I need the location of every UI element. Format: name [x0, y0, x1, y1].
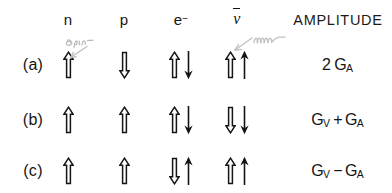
- solid-up-arrow-icon: [239, 156, 250, 186]
- hollow-up-arrow-icon: [225, 157, 236, 185]
- arrow-group-row-a-antineutrino: [225, 50, 250, 80]
- arrow-group-row-a-p: [119, 51, 130, 79]
- row-label-b-text: (b): [23, 112, 43, 128]
- amplitude-row-b-term-2-subscript: A: [357, 118, 364, 129]
- solid-down-arrow-icon: [239, 105, 250, 135]
- solid-up-arrow-icon: [239, 50, 250, 80]
- cell-row-a-p: [104, 48, 144, 82]
- arrow-group-row-a-electron: [169, 50, 194, 80]
- hollow-down-arrow-icon: [119, 51, 130, 79]
- hollow-down-arrow-icon: [169, 157, 180, 185]
- cell-row-c-electron: [156, 154, 206, 188]
- arrow-group-row-c-antineutrino: [225, 156, 250, 186]
- amplitude-row-c: GV−GA: [284, 158, 392, 184]
- cell-row-a-n: [48, 48, 88, 82]
- solid-up-arrow-icon: [183, 156, 194, 186]
- amplitude-row-a-coefficient: 2: [322, 57, 331, 73]
- arrow-group-row-b-n: [63, 106, 74, 134]
- cell-row-c-p: [104, 154, 144, 188]
- arrow-group-row-c-electron: [169, 156, 194, 186]
- hollow-up-arrow-icon: [169, 51, 180, 79]
- solid-down-arrow-icon: [183, 105, 194, 135]
- hollow-down-arrow-icon: [225, 106, 236, 134]
- hollow-up-arrow-icon: [63, 157, 74, 185]
- hollow-up-arrow-icon: [169, 106, 180, 134]
- column-header-electron: e−: [158, 8, 204, 30]
- arrow-group-row-c-p: [119, 157, 130, 185]
- amplitude-row-c-operator: −: [333, 163, 343, 179]
- column-header-antineutrino: ν: [214, 6, 260, 30]
- hollow-up-arrow-icon: [63, 106, 74, 134]
- column-header-n: n: [48, 8, 88, 30]
- amplitude-row-a-term-1-subscript: A: [346, 63, 353, 74]
- row-label-a-text: (a): [23, 57, 43, 73]
- amplitude-row-b-operator: +: [333, 112, 343, 128]
- column-header-electron-superscript: −: [182, 14, 188, 24]
- arrow-group-row-b-p: [119, 106, 130, 134]
- hollow-up-arrow-icon: [119, 157, 130, 185]
- cell-row-b-antineutrino: [212, 103, 262, 137]
- arrow-group-row-a-n: [63, 51, 74, 79]
- hollow-up-arrow-icon: [63, 51, 74, 79]
- amplitude-row-b: GV+GA: [284, 107, 392, 133]
- cell-row-a-antineutrino: [212, 48, 262, 82]
- cell-row-c-n: [48, 154, 88, 188]
- cell-row-b-electron: [156, 103, 206, 137]
- cell-row-c-antineutrino: [212, 154, 262, 188]
- physics-amplitude-figure: n p e− ν AMPLITUDE (a): [0, 0, 392, 193]
- column-header-p: p: [104, 8, 144, 30]
- column-header-amplitude-label: AMPLITUDE: [293, 13, 382, 28]
- amplitude-row-b-term-1-subscript: V: [323, 118, 330, 129]
- cell-row-a-electron: [156, 48, 206, 82]
- row-label-c-text: (c): [23, 163, 43, 179]
- amplitude-row-a: 2GA: [284, 52, 392, 78]
- solid-down-arrow-icon: [183, 50, 194, 80]
- column-header-electron-label: e: [174, 12, 183, 27]
- arrow-group-row-b-electron: [169, 105, 194, 135]
- amplitude-row-c-term-2-subscript: A: [357, 169, 364, 180]
- hollow-up-arrow-icon: [119, 106, 130, 134]
- cell-row-b-n: [48, 103, 88, 137]
- column-header-n-label: n: [64, 12, 73, 27]
- amplitude-row-c-term-1-subscript: V: [323, 169, 330, 180]
- arrow-group-row-c-n: [63, 157, 74, 185]
- column-header-p-label: p: [120, 12, 129, 27]
- column-header-amplitude: AMPLITUDE: [284, 9, 392, 31]
- cell-row-b-p: [104, 103, 144, 137]
- hollow-up-arrow-icon: [225, 51, 236, 79]
- arrow-group-row-b-antineutrino: [225, 105, 250, 135]
- column-header-antineutrino-label: ν: [233, 9, 240, 27]
